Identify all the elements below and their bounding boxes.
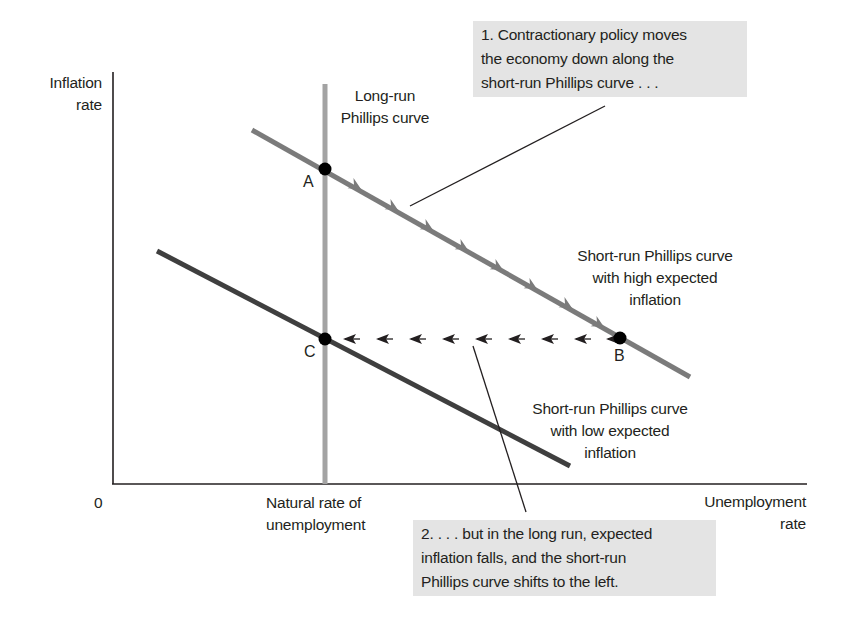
callout-2-line1: 2. . . . but in the long run, expected: [421, 522, 708, 546]
srpc-high-label: Short-run Phillips curve with high expec…: [555, 245, 755, 311]
natural-rate-label: Natural rate of unemployment: [266, 492, 365, 536]
y-axis-label-line1: Inflation: [30, 72, 102, 94]
point-c: [319, 333, 332, 346]
lrpc-label-line2: Phillips curve: [330, 107, 440, 129]
short-run-phillips-curve-low: [157, 251, 570, 466]
origin-label: 0: [94, 492, 102, 514]
callout-1-line2: the economy down along the: [481, 47, 739, 71]
point-b-label: B: [614, 347, 625, 365]
x-axis-label-line1: Unemployment: [660, 491, 806, 513]
point-a-label: A: [303, 173, 314, 191]
srpc-low-label-line2: with low expected: [510, 420, 710, 442]
callout-2-line3: Phillips curve shifts to the left.: [421, 570, 708, 594]
point-a: [319, 163, 332, 176]
srpc-high-label-line2: with high expected: [555, 267, 755, 289]
point-b: [614, 332, 627, 345]
callout-1-line1: 1. Contractionary policy moves: [481, 23, 739, 47]
y-axis-label-line2: rate: [30, 94, 102, 116]
srpc-high-label-line1: Short-run Phillips curve: [555, 245, 755, 267]
lrpc-label-line1: Long-run: [330, 85, 440, 107]
callout-1: 1. Contractionary policy moves the econo…: [473, 21, 747, 97]
callout-1-line3: short-run Phillips curve . . .: [481, 71, 739, 95]
callout-2: 2. . . . but in the long run, expected i…: [413, 520, 716, 596]
srpc-low-label-line1: Short-run Phillips curve: [510, 398, 710, 420]
srpc-high-label-line3: inflation: [555, 289, 755, 311]
movement-arrows-b-to-c: [343, 334, 619, 344]
y-axis-label: Inflation rate: [30, 72, 102, 116]
callout-2-line2: inflation falls, and the short-run: [421, 546, 708, 570]
natural-rate-label-line1: Natural rate of: [266, 492, 365, 514]
point-c-label: C: [304, 343, 316, 361]
srpc-low-label-line3: inflation: [510, 442, 710, 464]
lrpc-label: Long-run Phillips curve: [330, 85, 440, 129]
natural-rate-label-line2: unemployment: [266, 514, 365, 536]
srpc-low-label: Short-run Phillips curve with low expect…: [510, 398, 710, 464]
